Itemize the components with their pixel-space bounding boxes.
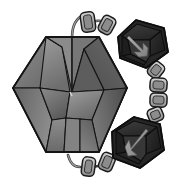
chain-link (81, 156, 97, 177)
chain-link (150, 93, 167, 108)
chain-link (150, 77, 168, 92)
gem-facet-bottom-center-pane (64, 118, 80, 152)
chain-link (80, 11, 97, 33)
figure-canvas (0, 0, 184, 186)
gem-chain-cubes-diagram (0, 0, 184, 186)
